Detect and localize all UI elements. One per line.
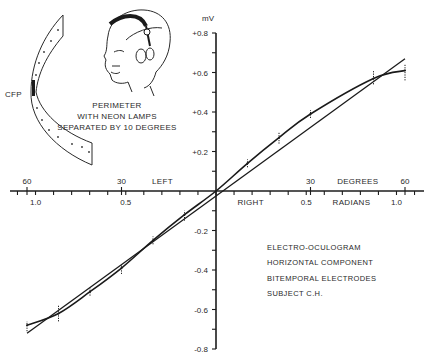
axes: 60303060 1.00.50.51.0 +0.8+0.6+0.4+0.2-0… [10, 14, 424, 354]
x-radian-tick-label: 1.0 [30, 198, 42, 207]
note-line-1: ELECTRO-OCULOGRAM [267, 243, 361, 252]
face-features [111, 28, 162, 74]
x-degree-tick-label: 30 [306, 177, 315, 186]
note-line-4: SUBJECT C.H. [267, 289, 323, 298]
y-tick-label: +0.8 [192, 29, 208, 38]
data-point [184, 214, 186, 216]
x-radian-tick-label: 0.5 [120, 198, 132, 207]
perimeter-caption-line-3: SEPARATED BY 10 DEGREES [57, 123, 176, 132]
data-point [278, 137, 280, 139]
perimeter-band [31, 15, 92, 165]
y-axis-unit-label: mV [202, 14, 215, 23]
y-tick-label: -0.6 [194, 306, 208, 315]
head-illustration [104, 10, 170, 96]
data-point [404, 70, 406, 72]
x-radian-tick-label: 1.0 [391, 198, 403, 207]
x-axis-right-label: RIGHT [237, 198, 263, 207]
y-tick-label: +0.6 [192, 69, 208, 78]
data-point [58, 312, 60, 314]
perimeter-caption-line-2: WITH NEON LAMPS [77, 112, 157, 121]
lamp-dot [38, 62, 40, 64]
data-point [247, 162, 249, 164]
y-tick-label: -0.4 [194, 266, 208, 275]
x-degree-tick-label: 30 [117, 177, 126, 186]
x-degree-tick-label: 60 [401, 177, 410, 186]
cfp-label: CFP [5, 90, 22, 99]
lamp-dot [88, 151, 90, 153]
data-point [26, 324, 28, 326]
data-point [373, 77, 375, 79]
x-radian-tick-label: 0.5 [301, 198, 313, 207]
data-point [89, 291, 91, 293]
notes-block: ELECTRO-OCULOGRAM HORIZONTAL COMPONENT B… [267, 243, 376, 298]
data-point [310, 113, 312, 115]
perimeter-caption-line-1: PERIMETER [92, 101, 141, 110]
central-fixation-point [32, 80, 35, 96]
x-axis-left-label: LEFT [152, 177, 173, 186]
lamp-dot [50, 40, 52, 42]
ear-icon [146, 48, 154, 60]
headband [110, 16, 146, 26]
perimeter-illustration: CFP PERIMETER WITH NEON LAMPS SEPARATED … [5, 15, 177, 165]
electrode-icon [144, 29, 150, 35]
lamp-dot [57, 136, 59, 138]
note-line-2: HORIZONTAL COMPONENT [267, 258, 373, 267]
eog-chart: CFP PERIMETER WITH NEON LAMPS SEPARATED … [0, 0, 431, 360]
note-line-3: BITEMPORAL ELECTRODES [267, 274, 376, 283]
lamp-dot [48, 129, 50, 131]
y-tick-label: -0.8 [194, 345, 208, 354]
lamp-dot [43, 51, 45, 53]
lamp-dot [36, 107, 38, 109]
x-axis-degrees-label: DEGREES [337, 177, 378, 186]
lamp-dot [71, 143, 73, 145]
y-tick-label: -0.2 [194, 227, 208, 236]
lamp-dot [41, 119, 43, 121]
ear-electrode-icon [136, 49, 146, 63]
data-point [121, 267, 123, 269]
y-tick-label: +0.4 [192, 108, 208, 117]
lamp-dot [81, 146, 83, 148]
lamp-dot [35, 74, 37, 76]
x-axis-radians-label: RADIANS [333, 198, 371, 207]
x-degree-tick-label: 60 [23, 177, 32, 186]
neon-lamp-dots [35, 29, 90, 153]
y-tick-label: +0.2 [192, 148, 208, 157]
lamp-dot [57, 29, 59, 31]
